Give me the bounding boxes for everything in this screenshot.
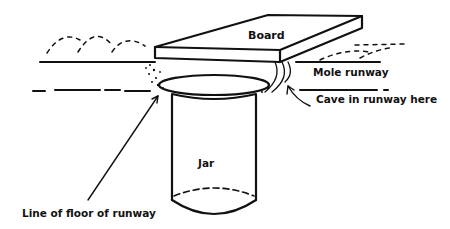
mound-arcs-left	[47, 36, 145, 53]
floor-arrow	[88, 96, 158, 200]
jar-label: Jar	[198, 158, 214, 169]
runway-floor-line	[33, 90, 388, 91]
cave-label: Cave in runway here	[316, 94, 437, 105]
board-label: Board	[248, 30, 285, 41]
mound-arcs-right	[320, 44, 405, 60]
jar	[159, 75, 269, 214]
diagram-drawing	[0, 0, 450, 229]
mole-runway-label: Mole runway	[313, 67, 388, 78]
floor-line-label: Line of floor of runway	[22, 208, 156, 219]
mole-trap-diagram: Board Mole runway Cave in runway here Ja…	[0, 0, 450, 229]
